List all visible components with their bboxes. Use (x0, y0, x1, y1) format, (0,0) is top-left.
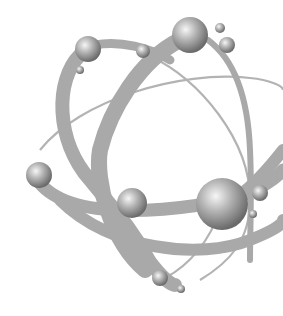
sphere (76, 66, 84, 74)
atom-illustration (0, 0, 283, 316)
sphere (215, 23, 225, 33)
sphere (136, 44, 150, 58)
sphere (152, 270, 168, 286)
sphere (172, 17, 208, 53)
sphere (75, 36, 101, 62)
sphere (177, 285, 185, 293)
sphere (26, 162, 52, 188)
sphere (219, 37, 235, 53)
sphere (196, 178, 248, 230)
atom-graphic (0, 0, 283, 316)
sphere (252, 185, 268, 201)
sphere (117, 188, 147, 218)
sphere (249, 210, 257, 218)
